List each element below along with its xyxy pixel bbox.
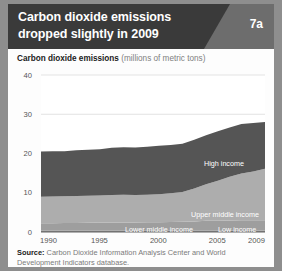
x-tick-label: 1990 <box>40 236 57 245</box>
header-wedge-decoration <box>204 4 274 49</box>
y-tick-label: 20 <box>16 149 32 158</box>
series-label-high-income: High income <box>204 159 244 168</box>
y-tick-label: 0 <box>16 228 32 237</box>
chart-subtitle: Carbon dioxide emissions (millions of me… <box>17 54 205 63</box>
x-tick-label: 2009 <box>248 236 265 245</box>
chart-card: Carbon dioxide emissions dropped slightl… <box>8 4 274 267</box>
figure-badge: 7a <box>250 17 263 31</box>
title-line-1: Carbon dioxide emissions <box>18 10 171 24</box>
y-tick-label: 40 <box>16 71 32 80</box>
y-tick-label: 10 <box>16 188 32 197</box>
x-tick-label: 2005 <box>209 236 226 245</box>
chart-subtitle-bold: Carbon dioxide emissions <box>17 54 119 63</box>
chart-header: Carbon dioxide emissions dropped slightl… <box>8 4 274 49</box>
source-label: Source: <box>17 248 45 257</box>
x-tick-label: 2000 <box>150 236 167 245</box>
title-line-2: dropped slightly in 2009 <box>18 27 159 41</box>
source-text: Carbon Dioxide Information Analysis Cent… <box>17 248 226 267</box>
series-label-low-income: Low income <box>218 225 256 234</box>
series-label-lower-middle-income: Lower middle income <box>125 225 193 234</box>
y-tick-label: 30 <box>16 110 32 119</box>
page-title: Carbon dioxide emissions dropped slightl… <box>18 9 213 43</box>
source-note: Source: Carbon Dioxide Information Analy… <box>17 248 267 267</box>
x-tick-label: 1995 <box>91 236 108 245</box>
chart-subtitle-units: (millions of metric tons) <box>119 54 205 63</box>
series-label-upper-middle-income: Upper middle income <box>191 210 259 219</box>
